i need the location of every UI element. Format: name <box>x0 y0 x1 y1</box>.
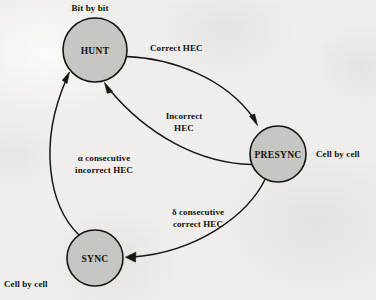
transition-label-incorrect-hec: Incorrect HEC <box>166 111 203 134</box>
annotation-sync-mode: Cell by cell <box>4 279 48 291</box>
state-label-presync: PRESYNC <box>255 150 302 160</box>
transition-label-correct-hec: Correct HEC <box>150 43 203 55</box>
transition-label-alpha-consecutive-incorrect-hec: α consecutive incorrect HEC <box>75 153 133 176</box>
transition-label-alpha-line2: incorrect HEC <box>75 165 133 177</box>
annotation-presync-mode: Cell by cell <box>316 149 360 161</box>
state-diagram-figure: HUNT PRESYNC SYNC Bit by bit Cell by cel… <box>0 0 376 300</box>
transition-label-incorrect-hec-line1: Incorrect <box>166 111 203 123</box>
state-label-sync: SYNC <box>81 254 108 264</box>
transition-label-delta-line1: δ consecutive <box>172 207 224 219</box>
edge-hunt-to-presync-arrowhead <box>250 114 258 125</box>
transition-label-correct-hec-line1: Correct HEC <box>150 43 203 55</box>
transition-label-incorrect-hec-line2: HEC <box>166 123 203 135</box>
edge-presync-to-hunt-arrowhead <box>105 83 113 94</box>
transition-label-alpha-line1: α consecutive <box>75 153 133 165</box>
transition-label-delta-line2: correct HEC <box>172 219 224 231</box>
edge-sync-to-hunt-arrowhead <box>62 72 69 84</box>
edge-presync-to-sync-arrowhead <box>126 252 136 262</box>
edge-hunt-to-presync-path <box>126 57 254 119</box>
transition-label-delta-consecutive-correct-hec: δ consecutive correct HEC <box>172 207 224 230</box>
annotation-hunt-mode: Bit by bit <box>71 3 108 15</box>
state-label-hunt: HUNT <box>81 46 110 56</box>
